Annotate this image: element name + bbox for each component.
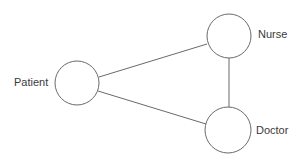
edges [98,44,229,124]
node-nurse: Nurse [207,14,287,58]
node-doctor-label: Doctor [256,124,289,136]
edge-patient-doctor [98,91,206,124]
nodes: Patient Nurse Doctor [14,14,289,153]
node-doctor-circle [205,107,251,153]
node-doctor: Doctor [205,107,289,153]
node-patient-label: Patient [14,76,48,88]
node-nurse-label: Nurse [258,28,287,40]
relationship-diagram: Patient Nurse Doctor [0,0,304,165]
node-nurse-circle [207,14,251,58]
node-patient-circle [55,61,99,105]
edge-patient-nurse [99,44,207,77]
node-patient: Patient [14,61,99,105]
